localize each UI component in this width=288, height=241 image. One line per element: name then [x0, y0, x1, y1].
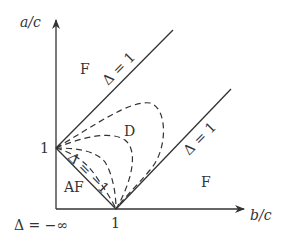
region-label-ferro-lower: F [201, 174, 211, 190]
origin-label: Δ = −∞ [14, 217, 68, 233]
phase-diagram: a/c b/c 1 1 F F D AF Δ = 1 Δ = 1 Δ = −1 … [0, 0, 288, 241]
region-label-ferro-upper: F [80, 61, 90, 77]
lower-delta-one-line [116, 89, 231, 209]
upper-line-label: Δ = 1 [99, 49, 138, 88]
region-label-antiferro: AF [63, 179, 84, 195]
region-label-disordered: D [124, 123, 135, 139]
x-tick-one: 1 [111, 215, 120, 231]
x-axis-label: b/c [250, 207, 272, 223]
lower-line-label: Δ = 1 [180, 119, 219, 158]
y-axis-label: a/c [20, 14, 41, 30]
upper-delta-one-line [56, 30, 173, 148]
y-tick-one: 1 [40, 140, 49, 156]
